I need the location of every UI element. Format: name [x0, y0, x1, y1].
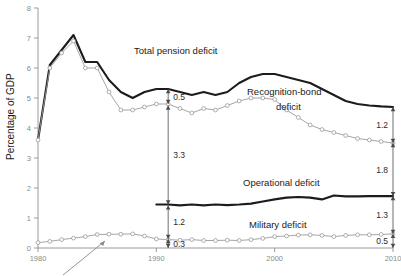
y-tick-label: 3 — [27, 154, 31, 163]
data-point-marker — [190, 238, 194, 242]
annotation-arrowhead-top — [166, 106, 171, 110]
annotation-gap-right-1-8: 1.8 — [376, 143, 395, 196]
axes — [38, 8, 393, 248]
data-point-marker — [107, 90, 111, 94]
annotation-gap-right-0-5: 0.5 — [376, 234, 395, 248]
annotation-label: 0.3 — [173, 239, 185, 249]
data-point-marker — [261, 237, 265, 241]
data-point-marker — [296, 233, 300, 237]
data-point-marker — [225, 104, 229, 108]
data-point-marker — [48, 240, 52, 244]
y-tick-group: 012345678 — [27, 4, 38, 253]
data-point-marker — [143, 105, 147, 109]
data-point-marker — [202, 107, 206, 111]
annotation-arrowhead-bottom — [391, 244, 396, 248]
series-layer — [36, 35, 395, 245]
annotation-gap-right-1-2: 1.2 — [376, 107, 395, 143]
series-line — [156, 196, 393, 206]
y-tick-label: 7 — [27, 34, 31, 43]
data-point-marker — [308, 233, 312, 237]
annotation-label: 0.5 — [376, 236, 388, 246]
data-point-marker — [202, 239, 206, 243]
data-point-marker — [36, 138, 40, 142]
data-point-marker — [36, 241, 40, 245]
annotation-label: 1.2 — [173, 217, 185, 227]
data-point-marker — [308, 123, 312, 127]
y-tick-label: 0 — [27, 244, 31, 253]
y-tick-label: 8 — [27, 4, 31, 13]
data-point-marker — [72, 39, 76, 43]
annotation-gap-1-2: 1.2 — [166, 205, 185, 239]
label-military-deficit: Military deficit — [249, 219, 307, 230]
caption-leader-line — [63, 241, 105, 275]
data-point-marker — [367, 138, 371, 142]
data-point-marker — [131, 232, 135, 236]
data-point-marker — [48, 66, 52, 70]
series-3 — [36, 232, 395, 245]
annotation-gap-right-1-3: 1.3 — [376, 196, 395, 234]
data-point-marker — [154, 237, 158, 241]
data-point-marker — [367, 233, 371, 237]
data-point-marker — [154, 102, 158, 106]
data-point-marker — [214, 239, 218, 243]
data-point-marker — [344, 134, 348, 138]
x-tick-group: 1980199020002010 — [30, 248, 401, 263]
y-tick-label: 6 — [27, 64, 31, 73]
annotation-label: 1.2 — [376, 120, 388, 130]
y-tick-label: 2 — [27, 184, 31, 193]
data-point-marker — [143, 234, 147, 238]
data-point-marker — [356, 233, 360, 237]
data-point-marker — [296, 116, 300, 120]
y-tick-label: 5 — [27, 94, 31, 103]
annotation-label: 0.5 — [173, 92, 185, 102]
data-point-marker — [83, 235, 87, 239]
label-operational-deficit: Operational deficit — [243, 177, 320, 188]
data-point-marker — [60, 51, 64, 55]
data-point-marker — [178, 107, 182, 111]
y-tick-label: 4 — [27, 124, 31, 133]
data-point-marker — [237, 239, 241, 243]
data-point-marker — [95, 66, 99, 70]
data-point-marker — [225, 238, 229, 242]
annotation-label: 1.8 — [376, 165, 388, 175]
data-point-marker — [332, 131, 336, 135]
data-point-marker — [320, 128, 324, 132]
series-line — [38, 41, 393, 143]
annotation-label: 1.3 — [376, 210, 388, 220]
label-recognition-bond-deficit-2: deficit — [276, 101, 301, 112]
x-tick-label: 2010 — [385, 254, 401, 263]
data-point-marker — [285, 234, 289, 238]
data-point-marker — [237, 99, 241, 103]
x-tick-label: 1980 — [30, 254, 47, 263]
data-point-marker — [356, 137, 360, 141]
data-point-marker — [214, 108, 218, 112]
label-recognition-bond-deficit: Recognition-bond — [247, 86, 321, 97]
data-point-marker — [119, 232, 123, 236]
x-tick-label: 1990 — [148, 254, 165, 263]
x-tick-label: 2000 — [266, 254, 283, 263]
data-point-marker — [107, 232, 111, 236]
annotation-gap-0-5: 0.5 — [166, 89, 185, 104]
data-point-marker — [249, 238, 253, 242]
annotation-arrowhead-bottom — [166, 244, 171, 248]
label-total-pension-deficit: Total pension deficit — [134, 45, 218, 56]
annotation-gap-3-3: 3.3 — [166, 106, 185, 205]
data-point-marker — [131, 108, 135, 112]
data-point-marker — [332, 235, 336, 239]
y-axis-title: Percentage of GDP — [5, 73, 16, 160]
data-point-marker — [273, 235, 277, 239]
y-tick-label: 1 — [27, 214, 31, 223]
data-point-marker — [119, 108, 123, 112]
data-point-marker — [60, 238, 64, 242]
data-point-marker — [379, 140, 383, 144]
annotation-label: 3.3 — [173, 150, 185, 160]
pension-deficit-line-chart: Percentage of GDP 012345678 198019902000… — [0, 0, 401, 276]
chart-figure: Percentage of GDP 012345678 198019902000… — [0, 0, 401, 276]
data-point-marker — [344, 234, 348, 238]
annotation-arrowhead-top — [166, 205, 171, 209]
data-point-marker — [83, 66, 87, 70]
data-point-marker — [95, 233, 99, 237]
data-point-marker — [72, 236, 76, 240]
data-point-marker — [190, 111, 194, 115]
series-2 — [156, 196, 393, 206]
